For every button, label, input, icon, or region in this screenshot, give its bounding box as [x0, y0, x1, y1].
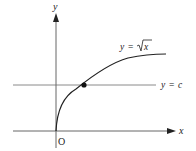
svg-text:=: =	[169, 80, 174, 90]
svg-text:y: y	[119, 42, 125, 52]
svg-text:=: =	[128, 42, 133, 52]
x-axis-arrow-icon	[167, 128, 176, 134]
curve-y-equals-sqrt-x	[56, 54, 166, 131]
svg-text:y: y	[160, 80, 166, 90]
horizontal-line-label: y = c	[160, 80, 183, 90]
origin-label: O	[58, 136, 65, 147]
svg-text:x: x	[143, 42, 149, 52]
y-axis-arrow-icon	[53, 13, 59, 22]
x-axis-label: x	[178, 125, 184, 136]
svg-text:c: c	[178, 80, 183, 90]
intersection-point	[81, 82, 86, 87]
y-axis-label: y	[52, 1, 58, 12]
sqrt-diagram: y x O y = x y = c	[0, 0, 196, 151]
curve-label: y = x	[119, 40, 152, 52]
